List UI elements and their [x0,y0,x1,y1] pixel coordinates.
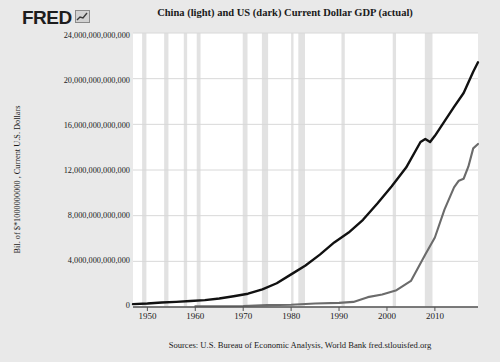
x-tick-label: 1990 [319,311,359,321]
source-note: Sources: U.S. Bureau of Economic Analysi… [120,340,480,350]
x-tick-label: 1980 [271,311,311,321]
x-tick-label: 1950 [127,311,167,321]
x-tick-label: 1970 [223,311,263,321]
fred-chart-image: FRED China (light) and US (dark) Current… [0,0,500,362]
x-tick-label: 2000 [367,311,407,321]
x-tick-label: 2010 [415,311,455,321]
x-tick-label: 1960 [175,311,215,321]
chart-plot-area [0,0,500,362]
